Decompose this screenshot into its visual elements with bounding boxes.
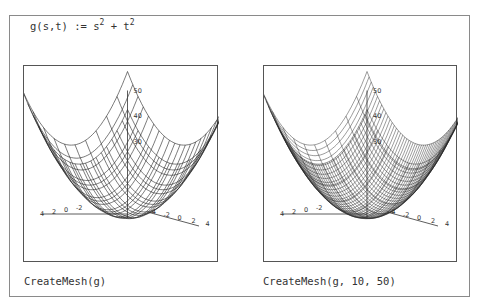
svg-text:-4: -4 [150, 208, 156, 216]
svg-text:50: 50 [373, 87, 381, 95]
svg-text:50: 50 [134, 87, 142, 95]
svg-text:2: 2 [431, 217, 435, 225]
caption-create-mesh-g: CreateMesh(g) [24, 275, 106, 287]
svg-text:0: 0 [178, 214, 182, 222]
svg-text:4: 4 [40, 210, 44, 218]
svg-text:-4: -4 [389, 208, 395, 216]
svg-text:2: 2 [192, 217, 196, 225]
svg-text:0: 0 [64, 206, 68, 214]
svg-text:4: 4 [206, 220, 210, 228]
mesh-surface-fine: 504030420-2-4-2024 [264, 66, 458, 263]
svg-text:4: 4 [280, 210, 284, 218]
formula-exponent-t: 2 [130, 18, 135, 27]
svg-text:30: 30 [373, 138, 381, 146]
svg-text:0: 0 [304, 206, 308, 214]
caption-create-mesh-g-10-50: CreateMesh(g, 10, 50) [263, 275, 396, 287]
svg-text:-2: -2 [164, 211, 170, 219]
svg-text:0: 0 [417, 214, 421, 222]
svg-text:-2: -2 [403, 211, 409, 219]
surface-plot-fine[interactable]: 504030420-2-4-2024 [263, 65, 457, 262]
svg-text:2: 2 [292, 208, 296, 216]
svg-text:4: 4 [445, 220, 449, 228]
mesh-surface-coarse: 504030420-2-4-2024 [24, 66, 219, 263]
formula-mid: + t [104, 20, 129, 32]
function-definition: g(s,t) := s2 + t2 [30, 18, 135, 32]
svg-text:40: 40 [373, 112, 381, 120]
svg-text:40: 40 [134, 112, 142, 120]
svg-text:-2: -2 [316, 204, 322, 212]
svg-text:30: 30 [134, 138, 142, 146]
surface-plot-coarse[interactable]: 504030420-2-4-2024 [23, 65, 218, 262]
formula-lhs: g(s,t) := s [30, 20, 100, 32]
svg-text:-2: -2 [76, 204, 82, 212]
svg-text:2: 2 [52, 208, 56, 216]
